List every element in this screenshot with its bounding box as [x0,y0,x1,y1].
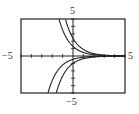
upper-curve-2 [66,20,125,56]
y-min-label: −5 [66,97,77,107]
lower-curve-1 [48,56,125,93]
upper-curve-1 [59,19,125,56]
x-min-label: −5 [2,51,13,61]
x-max-label: 5 [128,51,133,61]
y-max-label: 5 [70,6,75,16]
